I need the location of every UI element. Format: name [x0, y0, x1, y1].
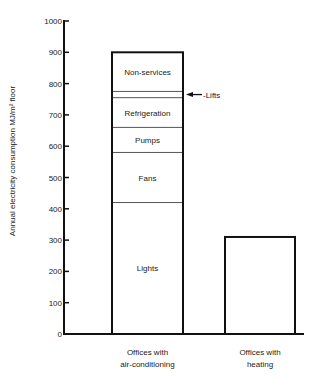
y-tick-label: 800 [49, 80, 63, 89]
bar-heating [225, 237, 295, 334]
segment-label-fans: Fans [139, 174, 157, 183]
y-tick-label: 300 [49, 236, 63, 245]
y-tick-label: 100 [49, 299, 63, 308]
y-tick-label: 900 [49, 48, 63, 57]
y-tick-label: 500 [49, 174, 63, 183]
segment-label-non-services: Non-services [124, 68, 171, 77]
y-tick-label: 200 [49, 267, 63, 276]
category-label: air-conditioning [120, 360, 174, 369]
segment-label-lights: Lights [137, 264, 158, 273]
chart: Annual electricity consumption MJ/m² flo… [0, 0, 311, 381]
y-tick-label: 600 [49, 142, 63, 151]
y-tick-label: 1000 [44, 17, 62, 26]
y-axis-label: Annual electricity consumption MJ/m² flo… [8, 86, 17, 237]
category-label: Offices with [127, 348, 168, 357]
segment-label-pumps: Pumps [135, 136, 160, 145]
y-tick-label: 400 [49, 205, 63, 214]
bars: LightsFansPumpsRefrigeration-LiftsNon-se… [112, 52, 295, 334]
y-tick-label: 0 [58, 330, 63, 339]
segment-label-refrigeration: Refrigeration [125, 109, 171, 118]
y-tick-label: 700 [49, 111, 63, 120]
annotation-lifts: -Lifts [203, 91, 220, 100]
arrow-head-icon [186, 92, 193, 97]
category-label: heating [247, 360, 273, 369]
category-labels: Offices withair-conditioningOffices with… [120, 348, 280, 369]
y-axis-ticks: 01002003004005006007008009001000 [44, 17, 69, 339]
bar-air-conditioning: LightsFansPumpsRefrigeration-LiftsNon-se… [112, 52, 220, 334]
category-label: Offices with [239, 348, 280, 357]
